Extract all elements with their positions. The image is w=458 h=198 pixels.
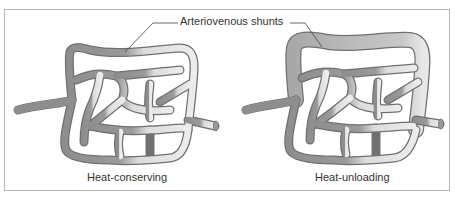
callout-arteriovenous-shunts: Arteriovenous shunts — [180, 15, 283, 27]
caption-heat-unloading: Heat-unloading — [315, 171, 390, 183]
caption-heat-conserving: Heat-conserving — [87, 171, 167, 183]
heat-unloading-network — [246, 40, 444, 161]
vessel-end-cap — [214, 121, 219, 131]
vessel-end-cap — [439, 119, 444, 129]
heat-conserving-network — [18, 48, 219, 161]
vascular-network-illustration — [0, 0, 458, 198]
